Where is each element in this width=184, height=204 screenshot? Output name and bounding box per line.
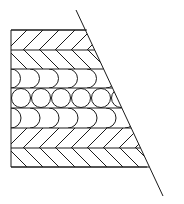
figure-canvas [0,0,184,204]
layered-cross-section-diagram [0,0,184,204]
